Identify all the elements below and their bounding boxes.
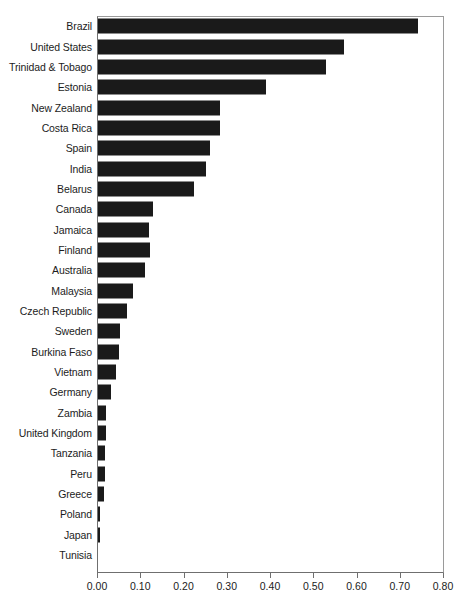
- x-tick-label: 0.80: [433, 580, 453, 592]
- x-tick-mark: [97, 573, 98, 578]
- bar-row: Belarus: [0, 179, 464, 199]
- bar: [98, 263, 145, 278]
- bar: [98, 507, 100, 522]
- bar: [98, 59, 326, 74]
- bar-track: [98, 263, 444, 278]
- x-tick-mark: [313, 573, 314, 578]
- bar: [98, 242, 150, 257]
- x-tick-mark: [184, 573, 185, 578]
- category-label: Trinidad & Tobago: [9, 61, 92, 73]
- bar: [98, 303, 127, 318]
- category-label: Canada: [56, 203, 92, 215]
- bar: [98, 405, 106, 420]
- x-tick-mark: [140, 573, 141, 578]
- bar-row: Australia: [0, 260, 464, 280]
- bar: [98, 426, 106, 441]
- x-tick-label: 0.60: [346, 580, 366, 592]
- category-label: Burkina Faso: [31, 346, 92, 358]
- bar: [98, 344, 119, 359]
- bar-track: [98, 100, 444, 115]
- x-tick-label: 0.70: [390, 580, 410, 592]
- bar: [98, 181, 194, 196]
- bar: [98, 39, 344, 54]
- bar: [98, 141, 210, 156]
- bar-track: [98, 161, 444, 176]
- chart-title: [0, 0, 464, 9]
- bar-track: [98, 303, 444, 318]
- bar-row: Costa Rica: [0, 118, 464, 138]
- bar-track: [98, 527, 444, 542]
- x-axis-tick-labels: 0.000.100.200.300.400.500.600.700.80: [0, 580, 464, 598]
- bar-row: United States: [0, 36, 464, 56]
- x-tick-mark: [357, 573, 358, 578]
- bar-track: [98, 283, 444, 298]
- category-label: Brazil: [66, 20, 92, 32]
- bar-track: [98, 120, 444, 135]
- bar-row: Peru: [0, 464, 464, 484]
- x-tick-mark: [400, 573, 401, 578]
- bar-row: Vietnam: [0, 362, 464, 382]
- bar-track: [98, 59, 444, 74]
- bar-row: Zambia: [0, 403, 464, 423]
- bar-row: Finland: [0, 240, 464, 260]
- bar-row: Czech Republic: [0, 301, 464, 321]
- x-tick-mark: [270, 573, 271, 578]
- x-tick-mark: [227, 573, 228, 578]
- bar-track: [98, 39, 444, 54]
- bar-row: Estonia: [0, 77, 464, 97]
- category-label: Australia: [52, 264, 92, 276]
- bar-row: Spain: [0, 138, 464, 158]
- bar-track: [98, 222, 444, 237]
- category-label: Belarus: [57, 183, 92, 195]
- bar-row: United Kingdom: [0, 423, 464, 443]
- bar-row: Canada: [0, 199, 464, 219]
- bar-track: [98, 365, 444, 380]
- bar-row: Brazil: [0, 16, 464, 36]
- category-label: Tanzania: [51, 447, 92, 459]
- category-label: Peru: [70, 468, 92, 480]
- category-label: Poland: [60, 508, 92, 520]
- bar: [98, 527, 100, 542]
- category-label: New Zealand: [31, 102, 92, 114]
- bar: [98, 487, 104, 502]
- x-tick-label: 0.00: [87, 580, 107, 592]
- bar-track: [98, 385, 444, 400]
- bar-row: India: [0, 158, 464, 178]
- bar-track: [98, 446, 444, 461]
- x-tick-label: 0.50: [303, 580, 323, 592]
- bar-row: Jamaica: [0, 219, 464, 239]
- category-label: Costa Rica: [42, 122, 92, 134]
- bar-track: [98, 466, 444, 481]
- bar-track: [98, 80, 444, 95]
- x-tick-mark: [443, 573, 444, 578]
- bar-row: Sweden: [0, 321, 464, 341]
- category-label: United States: [30, 41, 92, 53]
- bar: [98, 385, 111, 400]
- x-tick-label: 0.20: [173, 580, 193, 592]
- bar: [98, 365, 116, 380]
- bar-row: Tanzania: [0, 443, 464, 463]
- category-label: Zambia: [58, 407, 92, 419]
- bar-track: [98, 181, 444, 196]
- bar-track: [98, 324, 444, 339]
- bar-row: Poland: [0, 504, 464, 524]
- category-label: Estonia: [58, 81, 92, 93]
- bar-track: [98, 344, 444, 359]
- category-label: Vietnam: [54, 366, 92, 378]
- bar-track: [98, 19, 444, 34]
- category-label: United Kingdom: [19, 427, 92, 439]
- bar: [98, 19, 418, 34]
- category-label: Jamaica: [54, 224, 92, 236]
- category-label: Greece: [58, 488, 92, 500]
- bar-track: [98, 202, 444, 217]
- bar-row: Malaysia: [0, 280, 464, 300]
- bar: [98, 324, 120, 339]
- bar: [98, 466, 105, 481]
- x-axis-ticks: [97, 573, 444, 578]
- category-label: Spain: [66, 142, 92, 154]
- bar: [98, 100, 220, 115]
- bar: [98, 120, 220, 135]
- bar-row: Trinidad & Tobago: [0, 57, 464, 77]
- bar-row: Tunisia: [0, 545, 464, 565]
- bar-track: [98, 507, 444, 522]
